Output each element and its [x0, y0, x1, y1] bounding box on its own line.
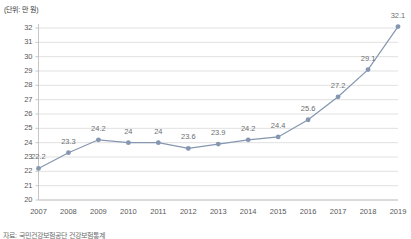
x-axis-tick-label: 2016 — [293, 207, 323, 216]
y-axis-tick-label: 28 — [11, 80, 33, 89]
y-axis-tick-label: 22 — [11, 166, 33, 175]
x-axis-tick-label: 2009 — [83, 207, 113, 216]
y-axis-tick-label: 26 — [11, 109, 33, 118]
x-axis-tick-label: 2007 — [24, 207, 54, 216]
data-point-marker — [366, 67, 371, 72]
data-point-label: 29.1 — [353, 54, 383, 63]
y-axis-tick-label: 21 — [11, 181, 33, 190]
data-point-label: 24 — [143, 127, 173, 136]
data-point-marker — [306, 117, 311, 122]
data-point-marker — [276, 135, 281, 140]
plot-area: 20212223242526272829303132 22.223.324.22… — [0, 22, 406, 206]
series-markers — [36, 24, 400, 171]
data-point-marker — [126, 140, 131, 145]
data-point-label: 23.3 — [53, 137, 83, 146]
chart-canvas — [0, 22, 406, 206]
x-axis-tick-label: 2010 — [113, 207, 143, 216]
data-point-marker — [246, 137, 251, 142]
data-point-label: 24.2 — [83, 124, 113, 133]
x-axis-tick-label: 2018 — [353, 207, 383, 216]
data-point-marker — [66, 150, 71, 155]
data-point-marker — [216, 142, 221, 147]
data-point-marker — [96, 137, 101, 142]
x-axis-tick-label: 2013 — [203, 207, 233, 216]
data-point-marker — [156, 140, 161, 145]
x-axis-tick-label: 2017 — [323, 207, 353, 216]
y-axis-tick-label: 32 — [11, 23, 33, 32]
data-point-marker — [396, 24, 401, 29]
y-axis-tick-label: 24 — [11, 138, 33, 147]
x-axis-tick-label: 2012 — [173, 207, 203, 216]
x-axis-tick-label: 2011 — [143, 207, 173, 216]
source-caption: 자료: 국민건강보험공단 건강보험통계 — [3, 230, 403, 239]
y-axis-tick-label: 20 — [11, 195, 33, 204]
y-axis-tick-label: 25 — [11, 123, 33, 132]
data-point-label: 24 — [113, 127, 143, 136]
data-point-label: 27.2 — [323, 81, 353, 90]
data-point-label: 22.2 — [24, 152, 54, 161]
unit-label: (단위: 만 원) — [4, 4, 39, 14]
data-point-marker — [36, 166, 41, 171]
y-axis-tick-label: 31 — [11, 37, 33, 46]
series-line — [39, 27, 399, 169]
data-point-label: 24.4 — [263, 121, 293, 130]
data-point-label: 23.9 — [203, 128, 233, 137]
x-axis-tick-label: 2019 — [383, 207, 411, 216]
data-point-label: 23.6 — [173, 132, 203, 141]
y-axis-tick-label: 27 — [11, 95, 33, 104]
data-point-label: 25.6 — [293, 104, 323, 113]
data-point-marker — [186, 146, 191, 151]
axis-lines — [36, 24, 399, 200]
y-axis-tick-label: 30 — [11, 52, 33, 61]
gridlines — [39, 28, 399, 200]
x-axis-tick-label: 2015 — [263, 207, 293, 216]
y-axis-tick-label: 29 — [11, 66, 33, 75]
x-axis-tick-label: 2008 — [53, 207, 83, 216]
x-axis-tick-label: 2014 — [233, 207, 263, 216]
data-point-label: 24.2 — [233, 124, 263, 133]
data-point-marker — [336, 94, 341, 99]
data-point-label: 32.1 — [383, 11, 411, 20]
